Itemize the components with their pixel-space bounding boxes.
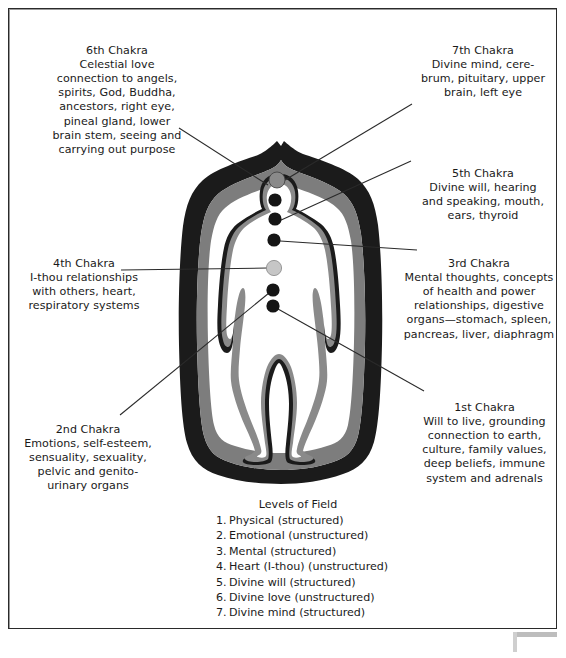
note-chakra-7-heading: 7th Chakra [410, 44, 556, 58]
list-item: 7.Divine mind (structured) [216, 605, 413, 620]
level-number: 6. [216, 590, 229, 605]
note-chakra-7: 7th ChakraDivine mind, cere- brum, pitui… [410, 30, 556, 100]
note-chakra-5-body: Divine will, hearing and speaking, mouth… [422, 181, 544, 222]
level-number: 1. [216, 513, 229, 528]
note-chakra-6-body: Celestial love connection to angels, spi… [53, 58, 182, 156]
list-item: 6.Divine love (unstructured) [216, 590, 413, 605]
level-label: Divine mind (structured) [229, 606, 365, 619]
note-chakra-3: 3rd ChakraMental thoughts, concepts of h… [400, 243, 558, 342]
list-item: 2.Emotional (unstructured) [216, 528, 413, 543]
list-item: 5.Divine will (structured) [216, 575, 413, 590]
note-chakra-5-heading: 5th Chakra [410, 167, 556, 181]
level-number: 7. [216, 605, 229, 620]
note-chakra-7-body: Divine mind, cere- brum, pituitary, uppe… [421, 58, 545, 99]
levels-of-field-title: Levels of Field [183, 497, 413, 512]
note-chakra-4: 4th ChakraI-thou relationships with othe… [13, 243, 155, 313]
level-number: 4. [216, 559, 229, 574]
levels-of-field-list: 1.Physical (structured) 2.Emotional (uns… [183, 513, 413, 621]
chakra-dot-brow-6th [268, 193, 281, 206]
level-label: Divine love (unstructured) [229, 591, 375, 604]
level-number: 5. [216, 575, 229, 590]
note-chakra-6: 6th ChakraCelestial love connection to a… [24, 30, 210, 157]
note-chakra-1-heading: 1st Chakra [412, 401, 557, 415]
chakra-dot-root-1st [266, 299, 279, 312]
chakra-dot-heart-4th [266, 260, 281, 275]
chakra-dot-crown-7th [269, 172, 285, 188]
chakra-dot-sacral-2nd [266, 283, 279, 296]
chakra-dot-throat-5th [268, 212, 281, 225]
note-chakra-2: 2nd ChakraEmotions, self-esteem, sensual… [12, 409, 164, 494]
note-chakra-6-heading: 6th Chakra [24, 44, 210, 58]
level-number: 3. [216, 544, 229, 559]
note-chakra-4-heading: 4th Chakra [13, 257, 155, 271]
note-chakra-3-body: Mental thoughts, concepts of health and … [404, 271, 554, 340]
list-item: 1.Physical (structured) [216, 513, 413, 528]
list-item: 4.Heart (I-thou) (unstructured) [216, 559, 413, 574]
level-label: Heart (I-thou) (unstructured) [229, 560, 388, 573]
chakra-dot-solar-3rd [267, 233, 280, 246]
level-label: Emotional (unstructured) [229, 529, 368, 542]
note-chakra-4-body: I-thou relationships with others, heart,… [28, 271, 139, 312]
note-chakra-3-heading: 3rd Chakra [400, 257, 558, 271]
level-label: Divine will (structured) [229, 576, 356, 589]
note-chakra-1: 1st ChakraWill to live, grounding connec… [412, 387, 557, 486]
levels-of-field: Levels of Field 1.Physical (structured) … [183, 497, 413, 621]
level-number: 2. [216, 528, 229, 543]
note-chakra-5: 5th ChakraDivine will, hearing and speak… [410, 153, 556, 223]
level-label: Mental (structured) [229, 545, 336, 558]
list-item: 3.Mental (structured) [216, 544, 413, 559]
note-chakra-2-body: Emotions, self-esteem, sensuality, sexua… [24, 437, 152, 492]
note-chakra-2-heading: 2nd Chakra [12, 423, 164, 437]
level-label: Physical (structured) [229, 514, 344, 527]
note-chakra-1-body: Will to live, grounding connection to ea… [422, 415, 546, 484]
